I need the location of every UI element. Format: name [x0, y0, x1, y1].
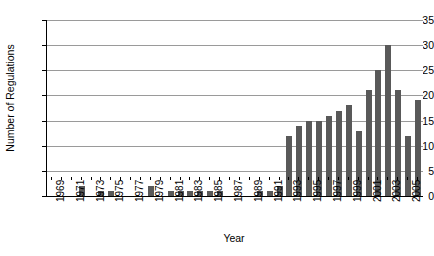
x-axis-tick-label: 1993	[292, 180, 303, 202]
x-axis-tick-label: 1989	[253, 180, 264, 202]
x-axis-tick-mark	[308, 177, 309, 180]
x-axis-tick-mark	[338, 177, 339, 180]
x-axis-tick-mark	[328, 177, 329, 180]
x-axis-tick-mark	[279, 177, 280, 180]
x-axis-tick-label: 1981	[174, 180, 185, 202]
x-axis-tick-label: 1987	[233, 180, 244, 202]
x-axis-tick-mark	[298, 177, 299, 180]
x-axis-tick-label: 2001	[372, 180, 383, 202]
x-axis-tick-label: 1971	[75, 180, 86, 202]
x-axis-tick-mark	[140, 177, 141, 180]
x-axis-tick-mark	[130, 177, 131, 180]
bar	[375, 70, 381, 196]
x-axis-tick-label: 1973	[95, 180, 106, 202]
x-axis-tick-mark	[288, 177, 289, 180]
x-axis-tick-mark	[71, 177, 72, 180]
x-axis-tick-label: 1999	[352, 180, 363, 202]
x-axis-tick-mark	[209, 177, 210, 180]
x-axis-tick-mark	[387, 177, 388, 180]
x-axis-tick-mark	[269, 177, 270, 180]
x-axis-tick-label: 1977	[134, 180, 145, 202]
x-axis-tick-mark	[219, 177, 220, 180]
x-axis-tick-mark	[189, 177, 190, 180]
x-axis-tick-label: 1983	[193, 180, 204, 202]
x-axis-tick-label: 2005	[411, 180, 422, 202]
x-axis-tick-mark	[249, 177, 250, 180]
x-axis-tick-label: 2003	[391, 180, 402, 202]
y-axis-title: Number of Regulations	[2, 0, 18, 196]
x-axis-tick-mark	[61, 177, 62, 180]
x-axis-tick-label: 1997	[332, 180, 343, 202]
bar-chart: Number of Regulations 05101520253035 196…	[0, 0, 434, 256]
x-axis-tick-mark	[259, 177, 260, 180]
x-axis-tick-label: 1995	[312, 180, 323, 202]
x-axis-tick-label: 1991	[273, 180, 284, 202]
x-axis-tick-mark	[91, 177, 92, 180]
x-axis-tick-mark	[180, 177, 181, 180]
x-axis-tick-mark	[348, 177, 349, 180]
x-axis-tick-mark	[170, 177, 171, 180]
x-axis-tick-mark	[120, 177, 121, 180]
x-axis-tick-mark	[397, 177, 398, 180]
x-axis-tick-mark	[110, 177, 111, 180]
x-axis-tick-mark	[358, 177, 359, 180]
bars-layer	[47, 20, 423, 196]
x-axis-title: Year	[46, 232, 422, 244]
x-axis-tick-mark	[239, 177, 240, 180]
x-axis-tick-mark	[81, 177, 82, 180]
x-axis-tick-label: 1985	[213, 180, 224, 202]
x-axis-tick-label: 1975	[114, 180, 125, 202]
x-axis-tick-label: 1979	[154, 180, 165, 202]
x-axis-tick-mark	[51, 177, 52, 180]
x-axis-tick-mark	[417, 177, 418, 180]
x-axis-tick-mark	[377, 177, 378, 180]
bar	[385, 45, 391, 196]
x-axis-tick-mark	[368, 177, 369, 180]
x-axis-tick-label: 1969	[55, 180, 66, 202]
x-axis-tick-mark	[407, 177, 408, 180]
x-axis-tick-mark	[229, 177, 230, 180]
x-axis-tick-mark	[199, 177, 200, 180]
x-axis-tick-mark	[100, 177, 101, 180]
x-axis-tick-mark	[318, 177, 319, 180]
plot-area	[46, 20, 423, 197]
x-axis-tick-mark	[160, 177, 161, 180]
x-axis-tick-mark	[150, 177, 151, 180]
